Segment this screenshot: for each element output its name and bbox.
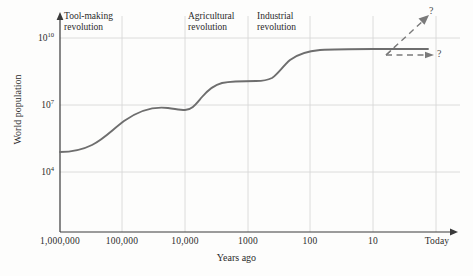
xtick-label-100: 100	[303, 236, 318, 246]
annotation-tool-making-line2: revolution	[64, 22, 113, 33]
future-growth-question-mark: ?	[429, 5, 433, 16]
ytick-label-1e10: 1010	[26, 33, 54, 43]
xtick-label-10000: 10,000	[171, 236, 198, 246]
annotation-agricultural-line1: Agricultural	[188, 11, 234, 21]
ytick-label-1e7: 107	[26, 100, 54, 110]
x-axis-title: Years ago	[0, 252, 473, 263]
future-plateau-question-mark: ?	[437, 48, 441, 59]
annotation-industrial-line1: Industrial	[257, 11, 293, 21]
xtick-label-today: Today	[425, 236, 450, 246]
x-axis-arrowhead	[450, 229, 458, 236]
ytick-label-1e4: 104	[26, 167, 54, 177]
annotation-agricultural-revolution: Agricultural revolution	[188, 11, 234, 32]
annotation-tool-making-line1: Tool-making	[64, 11, 113, 21]
y-axis-title: World population	[12, 45, 23, 175]
xtick-label-10: 10	[368, 236, 378, 246]
ytick-exponent-4: 4	[51, 165, 54, 172]
y-axis-arrowhead	[57, 12, 64, 20]
annotation-industrial-revolution: Industrial revolution	[257, 11, 296, 32]
annotation-tool-making-revolution: Tool-making revolution	[64, 11, 113, 32]
horizontal-gridlines	[60, 38, 460, 172]
xtick-label-1000000: 1,000,000	[40, 236, 80, 246]
population-growth-figure: 1010 107 104 1,000,000 100,000 10,000 10…	[0, 0, 473, 276]
xtick-label-1000: 1000	[238, 236, 258, 246]
ytick-exponent-10: 10	[47, 31, 54, 38]
annotation-industrial-line2: revolution	[257, 22, 296, 33]
ytick-exponent-7: 7	[51, 98, 54, 105]
chart-canvas	[0, 0, 473, 276]
annotation-agricultural-line2: revolution	[188, 22, 234, 33]
xtick-label-100000: 100,000	[106, 236, 138, 246]
future-plateau-arrowhead	[425, 52, 434, 58]
